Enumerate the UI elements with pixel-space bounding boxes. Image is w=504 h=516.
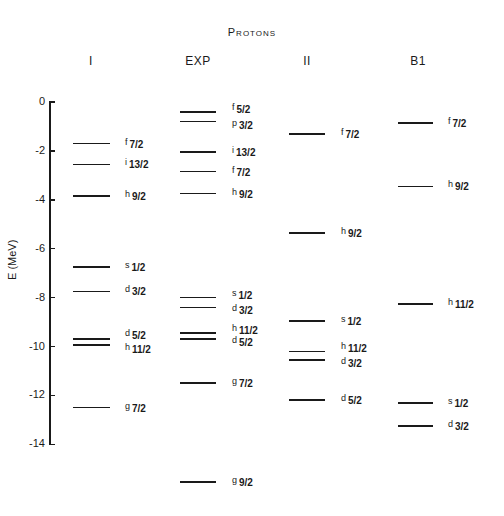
y-tick	[49, 346, 55, 348]
energy-level-line	[289, 232, 325, 234]
level-label: d5/2	[125, 327, 146, 338]
energy-level-line	[398, 122, 433, 124]
level-label: f7/2	[341, 126, 359, 137]
column-header: B1	[410, 54, 426, 68]
y-tick	[49, 297, 55, 299]
level-label: h11/2	[341, 340, 367, 351]
level-label: f5/2	[232, 101, 250, 112]
y-tick	[49, 101, 55, 103]
level-label: g9/2	[232, 474, 253, 485]
energy-level-line	[289, 351, 325, 353]
level-label: s1/2	[448, 395, 468, 406]
energy-level-line	[73, 164, 110, 166]
level-label: i13/2	[232, 144, 255, 155]
level-label: d5/2	[341, 392, 362, 403]
energy-level-line	[180, 481, 216, 483]
energy-level-line	[180, 338, 216, 340]
y-tick-label: -2	[21, 144, 45, 156]
y-tick	[49, 248, 55, 250]
energy-level-line	[289, 359, 325, 361]
energy-level-line	[73, 266, 110, 268]
level-label: d3/2	[232, 302, 253, 313]
y-tick-label: -10	[21, 340, 45, 352]
energy-level-line	[73, 195, 110, 197]
energy-level-line	[289, 133, 325, 135]
energy-level-line	[73, 143, 110, 145]
level-label: f7/2	[448, 115, 466, 126]
energy-level-line	[180, 171, 216, 173]
energy-level-line	[180, 307, 216, 309]
y-tick-label: 0	[21, 95, 45, 107]
energy-level-line	[398, 402, 433, 404]
y-axis	[49, 102, 51, 444]
y-tick-label: -8	[21, 291, 45, 303]
energy-level-line	[289, 320, 325, 322]
level-label: h11/2	[232, 322, 258, 333]
energy-level-diagram: Protons E (MeV) 0-2-4-6-8-10-12-14 If7/2…	[0, 0, 504, 516]
level-label: s1/2	[341, 313, 361, 324]
level-label: f7/2	[232, 164, 250, 175]
level-label: h11/2	[448, 296, 474, 307]
level-label: h11/2	[125, 341, 151, 352]
energy-level-line	[73, 344, 110, 346]
y-tick-label: -4	[21, 193, 45, 205]
y-tick	[49, 395, 55, 397]
column-header: EXP	[185, 54, 211, 68]
level-label: s1/2	[232, 287, 252, 298]
y-axis-label: E (MeV)	[6, 240, 18, 280]
energy-level-line	[180, 297, 216, 299]
y-tick	[49, 444, 55, 446]
energy-level-line	[180, 121, 216, 123]
energy-level-line	[180, 151, 216, 153]
level-label: h9/2	[232, 186, 253, 197]
level-label: i13/2	[125, 156, 148, 167]
energy-level-line	[73, 407, 110, 409]
level-label: h9/2	[125, 188, 146, 199]
level-label: f7/2	[125, 136, 143, 147]
y-tick-label: -6	[21, 242, 45, 254]
level-label: d3/2	[125, 283, 146, 294]
energy-level-line	[73, 291, 110, 293]
column-header: II	[303, 54, 311, 68]
column-header: I	[89, 54, 93, 68]
energy-level-line	[398, 303, 433, 305]
energy-level-line	[180, 382, 216, 384]
level-label: d3/2	[448, 418, 469, 429]
level-label: g7/2	[232, 375, 253, 386]
level-label: s1/2	[125, 259, 145, 270]
level-label: g7/2	[125, 400, 146, 411]
energy-level-line	[180, 332, 216, 334]
chart-title: Protons	[0, 26, 504, 38]
y-tick	[49, 150, 55, 152]
level-label: p3/2	[232, 117, 253, 128]
level-label: d3/2	[341, 355, 362, 366]
energy-level-line	[398, 425, 433, 427]
energy-level-line	[180, 111, 216, 113]
level-label: h9/2	[341, 225, 362, 236]
y-tick-label: -14	[21, 437, 45, 449]
y-tick	[49, 199, 55, 201]
level-label: h9/2	[448, 178, 469, 189]
energy-level-line	[398, 186, 433, 188]
energy-level-line	[73, 338, 110, 340]
energy-level-line	[180, 193, 216, 195]
level-label: d5/2	[232, 334, 253, 345]
y-tick-label: -12	[21, 388, 45, 400]
energy-level-line	[289, 399, 325, 401]
